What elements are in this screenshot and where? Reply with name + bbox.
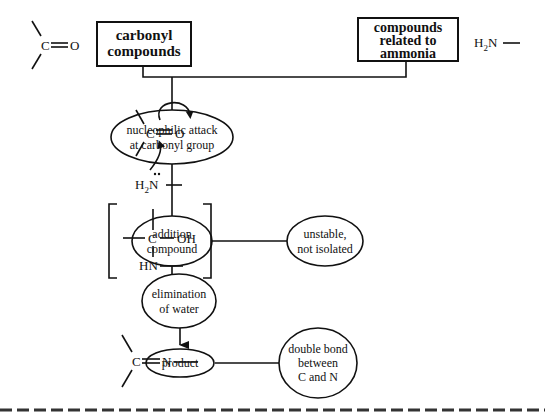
svg-text:C and N: C and N bbox=[298, 370, 338, 384]
svg-text:C: C bbox=[148, 231, 157, 246]
svg-text:double bond: double bond bbox=[288, 342, 348, 356]
svg-text:O: O bbox=[70, 38, 79, 53]
amine-structure: H2N bbox=[474, 35, 520, 53]
svg-text:OH: OH bbox=[177, 231, 196, 246]
svg-text:not isolated: not isolated bbox=[297, 242, 353, 256]
svg-text:compounds: compounds bbox=[107, 43, 181, 59]
svg-text:C: C bbox=[132, 354, 141, 369]
svg-text:of water: of water bbox=[159, 302, 199, 316]
reaction-flow-diagram: carbonyl compounds compounds related to … bbox=[0, 0, 545, 412]
svg-text:HN: HN bbox=[139, 258, 158, 273]
svg-text:ammonia: ammonia bbox=[380, 46, 436, 61]
elimination-of-water-node: elimination of water bbox=[142, 274, 216, 328]
carbonyl-structure: C O bbox=[32, 21, 79, 69]
svg-text:unstable,: unstable, bbox=[304, 227, 347, 241]
nucleophilic-attack-node: nucleophilic attack at carbonyl group bbox=[111, 110, 233, 164]
diagram-svg: carbonyl compounds compounds related to … bbox=[0, 0, 545, 412]
svg-text:elimination: elimination bbox=[152, 287, 207, 301]
svg-text:O: O bbox=[175, 126, 184, 141]
ammonia-compounds-box: compounds related to ammonia bbox=[358, 18, 458, 61]
svg-text:H2N: H2N bbox=[135, 177, 159, 195]
svg-text:carbonyl: carbonyl bbox=[116, 27, 173, 43]
svg-text:C: C bbox=[41, 38, 50, 53]
svg-text:H2N: H2N bbox=[474, 35, 498, 53]
carbonyl-compounds-box: carbonyl compounds bbox=[97, 22, 191, 66]
unstable-node: unstable, not isolated bbox=[287, 216, 363, 266]
svg-text:N: N bbox=[162, 354, 172, 369]
svg-text:between: between bbox=[298, 356, 338, 370]
double-bond-node: double bond between C and N bbox=[279, 328, 357, 398]
svg-text:C: C bbox=[146, 126, 155, 141]
